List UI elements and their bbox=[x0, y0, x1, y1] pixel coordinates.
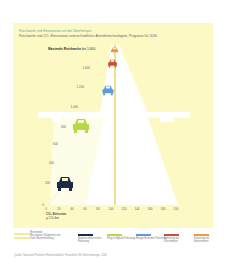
x-tick: 60 bbox=[79, 207, 91, 211]
x-tick: 200 bbox=[170, 207, 182, 211]
source-note: Quelle: Nationale Plattform Elektromobil… bbox=[14, 254, 107, 257]
legend-label-plugin: Plug-in-Hybrid-Fahrzeug bbox=[107, 237, 139, 240]
legend-swatch-range-hatch bbox=[14, 237, 30, 239]
legend-swatch-petrol bbox=[194, 234, 209, 236]
car-icon-battery-electric bbox=[55, 176, 75, 192]
car-icon-diesel bbox=[107, 59, 118, 68]
legend-label-range: Reichweite Reichweite (Kilometer) mit Ta… bbox=[30, 231, 66, 240]
autobahn-graphic bbox=[0, 0, 228, 262]
y-tick: 600 bbox=[38, 142, 58, 146]
car-icon-range-extender bbox=[101, 85, 115, 96]
legend-label-battery: Batterie-elektrisches Fahrzeug bbox=[78, 237, 110, 243]
legend-swatch-range-extender bbox=[136, 234, 151, 236]
legend-label-petrol: Fahrzeug mit Benzinmotor bbox=[194, 237, 222, 243]
y-tick: 1.200 bbox=[64, 85, 84, 89]
car-icon-plug-in-hybrid bbox=[71, 118, 91, 134]
y-tick: 200 bbox=[30, 181, 50, 185]
x-tick: 0 bbox=[40, 207, 52, 211]
x-tick: 20 bbox=[53, 207, 65, 211]
legend-swatch-battery bbox=[78, 234, 93, 236]
legend-swatch-plugin bbox=[107, 234, 122, 236]
x-axis-label: CO₂-Emission g CO₂/km bbox=[46, 212, 66, 220]
x-tick: 180 bbox=[157, 207, 169, 211]
y-tick: 800 bbox=[46, 125, 66, 129]
y-tick: 400 bbox=[34, 161, 54, 165]
y-tick: 1.400 bbox=[70, 66, 90, 70]
legend-swatch-diesel bbox=[164, 234, 179, 236]
x-tick: 140 bbox=[131, 207, 143, 211]
max-range-label: Maximale Reichweite bis 1.600 bbox=[48, 47, 95, 51]
x-tick: 100 bbox=[105, 207, 117, 211]
x-tick: 120 bbox=[118, 207, 130, 211]
x-tick: 40 bbox=[66, 207, 78, 211]
x-tick: 160 bbox=[144, 207, 156, 211]
legend-label-diesel: Fahrzeug mit Dieselmotor bbox=[164, 237, 192, 243]
x-tick: 80 bbox=[92, 207, 104, 211]
car-icon-petrol bbox=[110, 47, 119, 54]
y-tick: 1.000 bbox=[58, 105, 78, 109]
legend-swatch-range bbox=[14, 233, 30, 235]
